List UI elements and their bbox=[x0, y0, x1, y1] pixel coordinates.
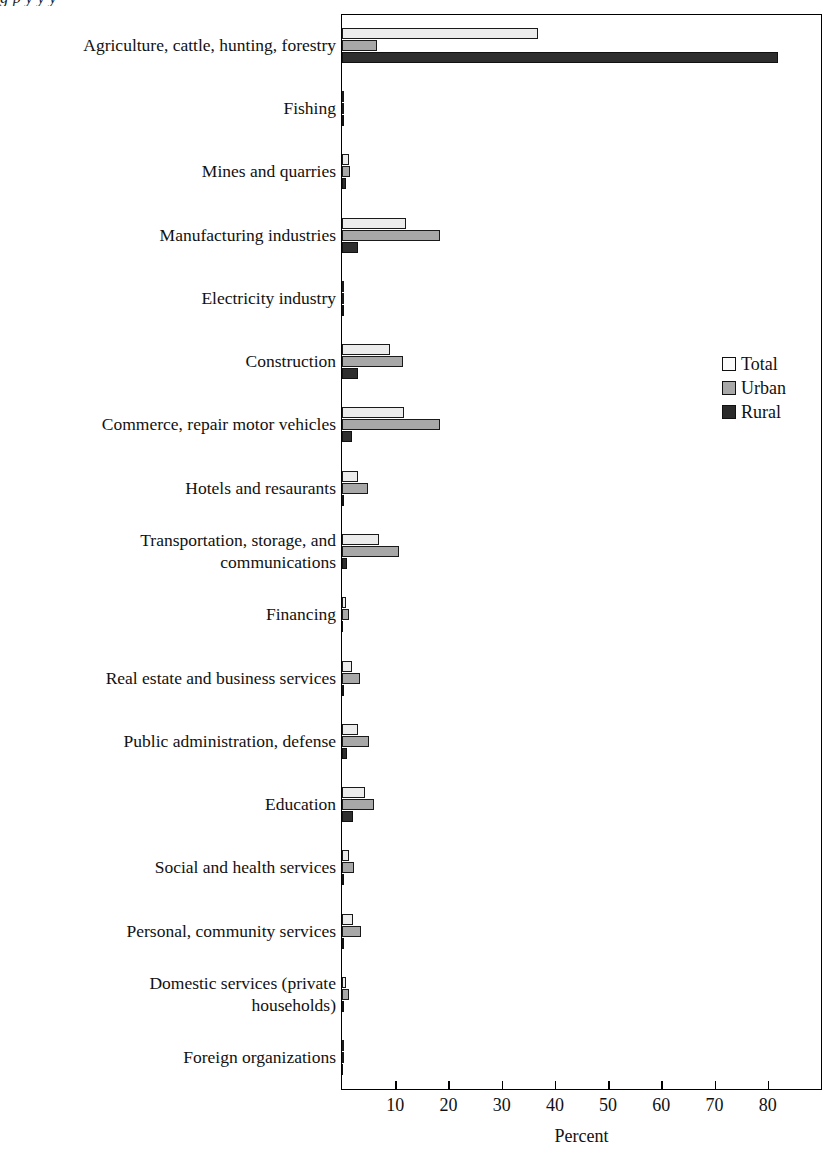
bars bbox=[342, 787, 374, 823]
bar-total bbox=[342, 914, 353, 925]
bar-group: Financing bbox=[0, 584, 830, 647]
bar-total bbox=[342, 597, 346, 608]
bar-group: Construction bbox=[0, 330, 830, 393]
category-label: Commerce, repair motor vehicles bbox=[6, 413, 336, 435]
bar-rural bbox=[342, 368, 358, 379]
bar-group: Agriculture, cattle, hunting, forestry bbox=[0, 14, 830, 77]
category-label: Manufacturing industries bbox=[6, 224, 336, 246]
category-label: Social and health services bbox=[6, 856, 336, 878]
bar-rural bbox=[342, 748, 347, 759]
bar-group: Mines and quarries bbox=[0, 141, 830, 204]
bar-rural bbox=[342, 874, 344, 885]
bar-urban bbox=[342, 483, 368, 494]
bar-group: Education bbox=[0, 774, 830, 837]
bar-total bbox=[342, 534, 379, 545]
x-axis-tick bbox=[555, 1081, 557, 1090]
bar-total bbox=[342, 28, 538, 39]
bar-rural bbox=[342, 1064, 343, 1075]
bars bbox=[342, 977, 349, 1013]
bar-total bbox=[342, 471, 358, 482]
category-label: Construction bbox=[6, 350, 336, 372]
bar-rural bbox=[342, 811, 353, 822]
bar-total bbox=[342, 91, 344, 102]
bars bbox=[342, 344, 403, 380]
bars bbox=[342, 597, 349, 633]
x-axis-tick bbox=[715, 1081, 717, 1090]
bar-rural bbox=[342, 115, 344, 126]
bar-rural bbox=[342, 621, 343, 632]
bars bbox=[342, 1040, 344, 1076]
bar-total bbox=[342, 154, 349, 165]
x-axis-tick-label: 60 bbox=[641, 1095, 681, 1116]
bar-rural bbox=[342, 305, 344, 316]
bar-rural bbox=[342, 685, 344, 696]
bars bbox=[342, 850, 354, 886]
x-axis-tick bbox=[395, 1081, 397, 1090]
bars bbox=[342, 407, 440, 443]
legend: TotalUrbanRural bbox=[722, 352, 786, 424]
bar-urban bbox=[342, 103, 344, 114]
bars bbox=[342, 534, 399, 570]
x-axis-tick-label: 50 bbox=[588, 1095, 628, 1116]
bars bbox=[342, 724, 369, 760]
legend-rural: Rural bbox=[722, 400, 786, 424]
bar-group: Real estate and business services bbox=[0, 647, 830, 710]
bar-rural bbox=[342, 52, 778, 63]
category-label: Financing bbox=[6, 603, 336, 625]
bars bbox=[342, 661, 360, 697]
legend-swatch-icon bbox=[722, 381, 736, 395]
category-label: Electricity industry bbox=[6, 287, 336, 309]
bar-total bbox=[342, 661, 352, 672]
category-label: Personal, community services bbox=[6, 920, 336, 942]
bar-total bbox=[342, 344, 390, 355]
bar-total bbox=[342, 850, 349, 861]
bar-urban bbox=[342, 419, 440, 430]
bars bbox=[342, 281, 344, 317]
bar-urban bbox=[342, 799, 374, 810]
bar-group: Personal, community services bbox=[0, 900, 830, 963]
x-axis-tick-label: 80 bbox=[748, 1095, 788, 1116]
x-axis-tick bbox=[502, 1081, 504, 1090]
legend-label: Total bbox=[741, 352, 778, 376]
x-axis-tick-label: 40 bbox=[535, 1095, 575, 1116]
bar-urban bbox=[342, 989, 349, 1000]
bars bbox=[342, 218, 440, 254]
bar-urban bbox=[342, 736, 369, 747]
category-label: Foreign organizations bbox=[6, 1046, 336, 1068]
bar-urban bbox=[342, 166, 350, 177]
bar-group: Public administration, defense bbox=[0, 710, 830, 773]
bar-group: Fishing bbox=[0, 77, 830, 140]
bar-urban bbox=[342, 546, 399, 557]
bar-urban bbox=[342, 673, 360, 684]
bar-urban bbox=[342, 609, 349, 620]
bars bbox=[342, 914, 361, 950]
bar-rural bbox=[342, 431, 352, 442]
category-label: Education bbox=[6, 793, 336, 815]
bar-urban bbox=[342, 230, 440, 241]
x-axis-tick bbox=[768, 1081, 770, 1090]
bar-urban bbox=[342, 1052, 344, 1063]
bar-group: Hotels and resaurants bbox=[0, 457, 830, 520]
bar-rural bbox=[342, 1001, 344, 1012]
x-axis-tick-label: 20 bbox=[428, 1095, 468, 1116]
figure: g p y y y Agriculture, cattle, hunting, … bbox=[0, 0, 830, 1159]
bar-rows: Agriculture, cattle, hunting, forestryFi… bbox=[0, 14, 830, 1090]
bar-rural bbox=[342, 558, 347, 569]
bar-total bbox=[342, 977, 346, 988]
bar-rural bbox=[342, 242, 358, 253]
bar-group: Transportation, storage, and communicati… bbox=[0, 520, 830, 583]
legend-label: Urban bbox=[741, 376, 786, 400]
category-label: Agriculture, cattle, hunting, forestry bbox=[6, 34, 336, 56]
x-axis-tick-label: 30 bbox=[482, 1095, 522, 1116]
category-label: Domestic services (private households) bbox=[6, 972, 336, 1016]
category-label: Fishing bbox=[6, 97, 336, 119]
category-label: Transportation, storage, and communicati… bbox=[6, 529, 336, 573]
x-axis-tick-label: 70 bbox=[695, 1095, 735, 1116]
title-remnant: g p y y y bbox=[0, 0, 830, 6]
x-axis-label: Percent bbox=[341, 1126, 822, 1147]
x-axis-tick-label: 10 bbox=[375, 1095, 415, 1116]
x-axis-tick bbox=[661, 1081, 663, 1090]
x-axis-tick bbox=[448, 1081, 450, 1090]
bar-urban bbox=[342, 356, 403, 367]
x-axis-tick bbox=[608, 1081, 610, 1090]
